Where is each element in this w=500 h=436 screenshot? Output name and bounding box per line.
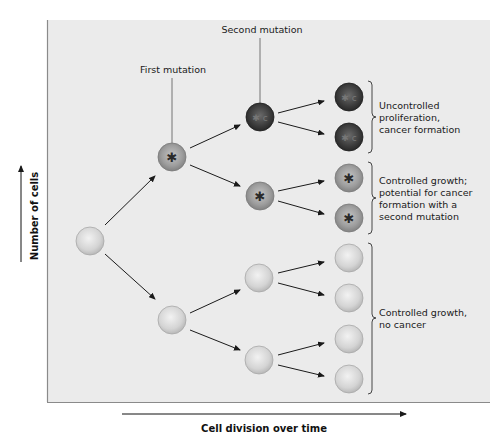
x-axis-label: Cell division over time	[201, 423, 327, 434]
cancer-cell: ✱ c	[246, 103, 274, 131]
normal-cell	[335, 365, 363, 393]
normal-cell	[335, 325, 363, 353]
mutated-cell: ✱	[335, 164, 363, 192]
mutation-marks-icon: ✱ c	[252, 113, 267, 123]
normal-cell	[335, 284, 363, 312]
cancer-cell: ✱ c	[335, 123, 363, 151]
cancer-cell: ✱ c	[335, 83, 363, 111]
mutation-star-icon: ✱	[344, 171, 355, 186]
cell-division-diagram: First mutation Second mutation ✱ ✱ c	[0, 0, 500, 436]
mutated-cell: ✱	[246, 182, 274, 210]
normal-cell	[245, 346, 273, 374]
normal-cell	[245, 264, 273, 292]
mutation-marks-icon: ✱ c	[341, 93, 356, 103]
mutated-cell: ✱	[335, 204, 363, 232]
normal-cell	[76, 227, 104, 255]
first-mutation-label: First mutation	[140, 64, 206, 75]
normal-cell	[158, 306, 186, 334]
mutation-marks-icon: ✱ c	[341, 133, 356, 143]
mutation-star-icon: ✱	[167, 150, 178, 165]
normal-cell	[335, 244, 363, 272]
mutated-cell: ✱	[158, 143, 186, 171]
second-mutation-label: Second mutation	[221, 24, 302, 35]
y-axis-label: Number of cells	[29, 172, 40, 261]
x-axis: Cell division over time	[122, 414, 406, 434]
y-axis: Number of cells	[21, 166, 40, 262]
mutation-star-icon: ✱	[255, 189, 266, 204]
mutation-star-icon: ✱	[344, 211, 355, 226]
